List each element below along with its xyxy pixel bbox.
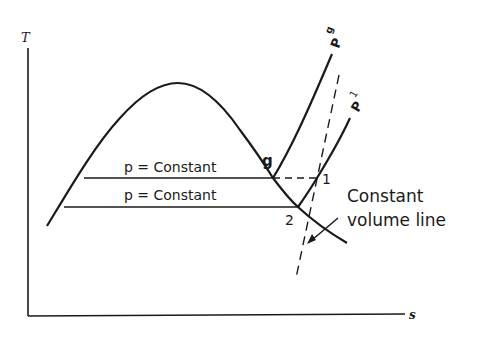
axes bbox=[28, 48, 405, 316]
pg-pressure-curve bbox=[273, 54, 332, 178]
x-axis bbox=[28, 314, 405, 316]
svg-text:P: P bbox=[348, 99, 366, 115]
upper-pressure-label: p = Constant bbox=[124, 159, 217, 175]
pg-label: P g bbox=[319, 25, 348, 50]
p1-label: P 1 bbox=[342, 88, 370, 114]
constant-volume-label-line2: volume line bbox=[347, 210, 446, 230]
x-axis-label: s bbox=[409, 308, 416, 322]
y-axis-label: T bbox=[21, 30, 31, 45]
point-2-label: 2 bbox=[285, 212, 294, 228]
svg-text:1: 1 bbox=[347, 88, 360, 99]
ts-diagram: T s p = Constant p = Constant P g P 1 g … bbox=[0, 0, 492, 338]
point-g-label: g bbox=[262, 152, 273, 170]
svg-text:g: g bbox=[323, 25, 336, 36]
arrow-head-icon bbox=[307, 234, 316, 244]
constant-volume-label-line1: Constant bbox=[347, 186, 424, 206]
point-1-label: 1 bbox=[322, 171, 331, 187]
p1-pressure-curve bbox=[298, 118, 350, 207]
lower-pressure-label: p = Constant bbox=[124, 187, 217, 203]
svg-text:P: P bbox=[327, 36, 344, 50]
